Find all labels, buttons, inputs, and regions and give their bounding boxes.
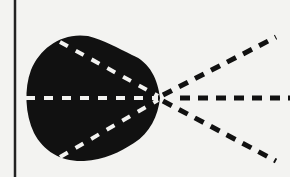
- diagram-canvas: [0, 0, 290, 177]
